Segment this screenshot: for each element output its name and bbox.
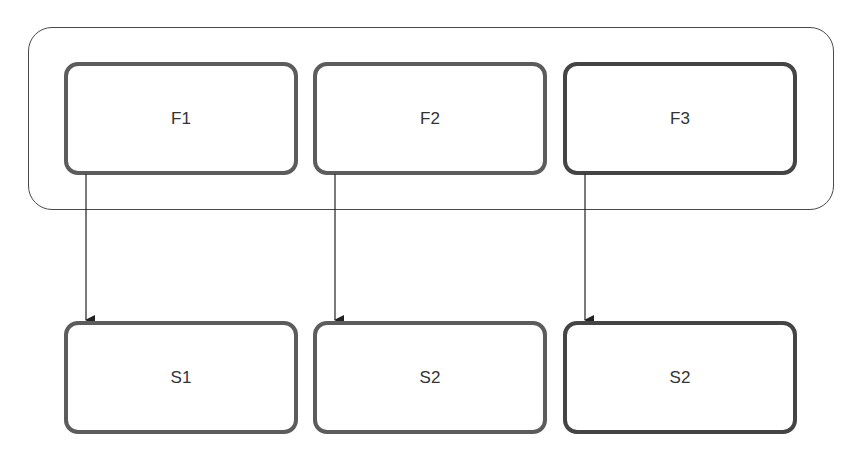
node-label: S2 [420, 368, 441, 388]
node-s2-b[interactable]: S2 [563, 321, 797, 434]
node-label: S2 [670, 368, 691, 388]
node-s1[interactable]: S1 [64, 321, 298, 434]
node-label: S1 [171, 368, 192, 388]
node-s2-a[interactable]: S2 [313, 321, 547, 434]
